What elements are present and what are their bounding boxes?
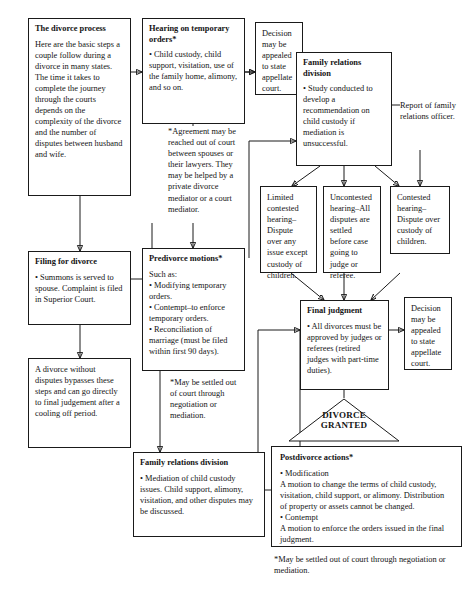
note-agreement-may-be-reached: *Agreement may be reached out of court b… (168, 126, 248, 215)
edge-contested-to-final (371, 273, 400, 300)
edge-study-to-contested (375, 166, 399, 186)
box-limited-contested-hearing: Limited contested hearing–Dispute over a… (260, 186, 317, 273)
box-filing-for-divorce-body: • Summons is served to spouse. Complaint… (35, 272, 124, 305)
box-uncontested-hearing-body: Uncontested hearing–All disputes are set… (330, 192, 374, 281)
box-contested-hearing: Contested hearing–Dispute over custody o… (390, 186, 450, 254)
box-family-relations-mediation: Family relations division • Mediation of… (133, 452, 265, 537)
box-family-relations-mediation-title: Family relations division (140, 458, 258, 469)
box-contested-hearing-body: Contested hearing–Dispute over custody o… (397, 192, 443, 247)
box-predivorce-motions-title: Predivorce motions* (149, 254, 238, 265)
box-final-judgment: Final judgment • All divorces must be ap… (300, 300, 389, 390)
box-family-relations-study-title: Family relations division (303, 58, 385, 79)
box-postdivorce-actions: Postdivorce actions* • Modification A mo… (271, 446, 462, 547)
box-family-relations-mediation-body: • Mediation of child custody issues. Chi… (140, 473, 258, 517)
box-limited-contested-hearing-body: Limited contested hearing–Dispute over a… (267, 192, 310, 281)
box-divorce-process: The divorce process Here are the basic s… (28, 18, 131, 196)
edge-study-to-limited (292, 166, 320, 186)
shape-divorce-granted-triangle: DIVORCE GRANTED (288, 398, 400, 442)
box-predivorce-motions: Predivorce motions* Such as: • Modifying… (142, 248, 245, 371)
box-final-judgment-body: • All divorces must be approved by judge… (307, 321, 382, 376)
box-filing-for-divorce: Filing for divorce • Summons is served t… (28, 251, 131, 325)
note-may-be-settled-left: *May be settled out of court through neg… (170, 377, 240, 421)
box-divorce-without-disputes-body: A divorce without disputes bypasses thes… (35, 364, 124, 419)
box-filing-for-divorce-title: Filing for divorce (35, 257, 124, 268)
box-decision-appealed-appellate-bottom-body: Decision may be appealed to state appell… (411, 303, 445, 370)
box-final-judgment-title: Final judgment (307, 306, 382, 317)
divorce-process-flowchart: The divorce process Here are the basic s… (0, 0, 471, 595)
box-predivorce-motions-body: Such as: • Modifying temporary orders. •… (149, 269, 238, 358)
note-report-family-relations-officer: Report of family relations officer. (400, 100, 460, 122)
box-family-relations-study: Family relations division • Study conduc… (296, 52, 392, 166)
box-divorce-without-disputes: A divorce without disputes bypasses thes… (28, 358, 131, 448)
divorce-granted-label: DIVORCE GRANTED (288, 410, 400, 431)
box-postdivorce-actions-title: Postdivorce actions* (280, 453, 453, 464)
box-decision-appealed-appellate-bottom: Decision may be appealed to state appell… (404, 297, 452, 370)
box-postdivorce-actions-body: • Modification A motion to change the te… (280, 468, 453, 546)
box-hearing-temporary-orders: Hearing on temporary orders* • Child cus… (142, 18, 245, 124)
box-decision-appealed-appellate-top-body: Decision may be appealed to state appell… (262, 28, 296, 95)
box-hearing-temporary-orders-title: Hearing on temporary orders* (149, 24, 238, 45)
note-may-be-settled-bottom: *May be settled out of court through neg… (274, 554, 464, 576)
box-family-relations-study-body: • Study conducted to develop a recommend… (303, 83, 385, 150)
box-hearing-temporary-orders-body: • Child custody, child support, visitati… (149, 49, 238, 93)
box-uncontested-hearing: Uncontested hearing–All disputes are set… (323, 186, 381, 273)
box-divorce-process-body: Here are the basic steps a couple follow… (35, 39, 124, 161)
box-divorce-process-title: The divorce process (35, 24, 124, 35)
